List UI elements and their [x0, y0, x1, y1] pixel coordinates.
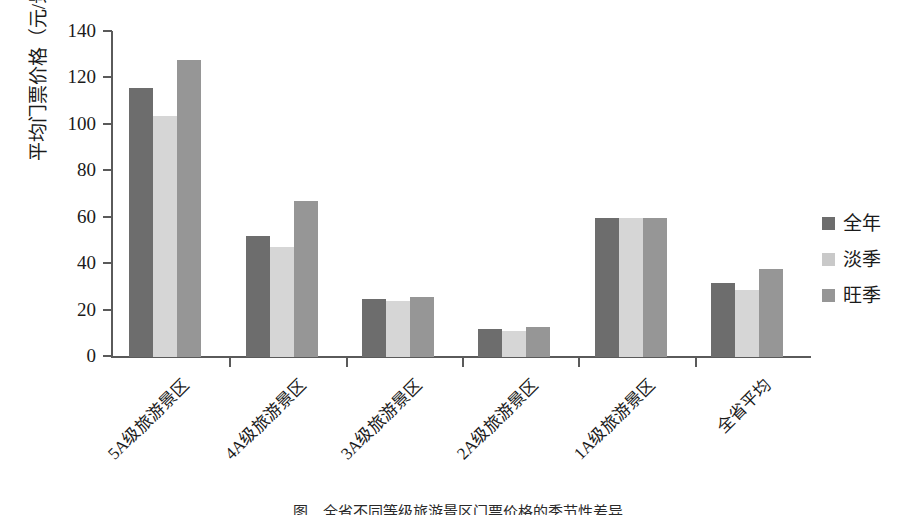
bar: [478, 329, 502, 357]
legend-item: 全年: [822, 205, 914, 241]
x-axis-category-label: 2A级旅游景区: [436, 375, 542, 481]
x-axis-separator: [462, 358, 464, 367]
bar: [270, 247, 294, 357]
x-axis-category-label: 4A级旅游景区: [204, 375, 310, 481]
legend-label: 旺季: [843, 286, 881, 305]
bar: [643, 218, 667, 357]
bar: [619, 218, 643, 357]
y-axis-tick-label: 120: [44, 67, 96, 86]
bar: [386, 301, 410, 357]
figure-caption: 图 全省不同等级旅游景区门票价格的季节性差异: [0, 503, 916, 515]
y-axis-tick-label: 140: [44, 21, 96, 40]
y-axis-tick-label: 20: [44, 300, 96, 319]
legend-item: 旺季: [822, 277, 914, 313]
bar: [177, 60, 201, 357]
bar: [595, 218, 619, 357]
x-axis-category-label: 全省平均: [669, 375, 775, 481]
legend-swatch-icon: [822, 253, 835, 266]
bar: [129, 88, 153, 357]
bar: [246, 236, 270, 357]
x-axis-separator: [695, 358, 697, 367]
plot-area: [113, 31, 811, 357]
x-axis-separator: [346, 358, 348, 367]
legend-swatch-icon: [822, 289, 835, 302]
bar: [526, 327, 550, 357]
y-axis-tick-label: 100: [44, 114, 96, 133]
x-axis-separator: [229, 358, 231, 367]
legend-label: 全年: [843, 214, 881, 233]
y-axis-tick-label: 80: [44, 160, 96, 179]
x-axis-category-label: 5A级旅游景区: [87, 375, 193, 481]
x-axis-category-label: 3A级旅游景区: [320, 375, 426, 481]
bar: [410, 297, 434, 357]
y-axis-tick-label: 40: [44, 253, 96, 272]
x-axis-category-label: 1A级旅游景区: [553, 375, 659, 481]
bar: [153, 116, 177, 357]
chart-figure: 平均门票价格（元/景区） 020406080100120140 5A级旅游景区4…: [0, 0, 916, 515]
y-axis-tick-label: 60: [44, 207, 96, 226]
bar: [759, 269, 783, 357]
bar: [711, 283, 735, 357]
legend-item: 淡季: [822, 241, 914, 277]
bar: [294, 201, 318, 357]
x-axis-separator: [578, 358, 580, 367]
legend: 全年淡季旺季: [822, 205, 914, 313]
bar: [735, 290, 759, 357]
legend-swatch-icon: [822, 217, 835, 230]
legend-label: 淡季: [843, 250, 881, 269]
bar: [502, 331, 526, 357]
y-axis-tick-label: 0: [44, 346, 96, 365]
bar: [362, 299, 386, 357]
